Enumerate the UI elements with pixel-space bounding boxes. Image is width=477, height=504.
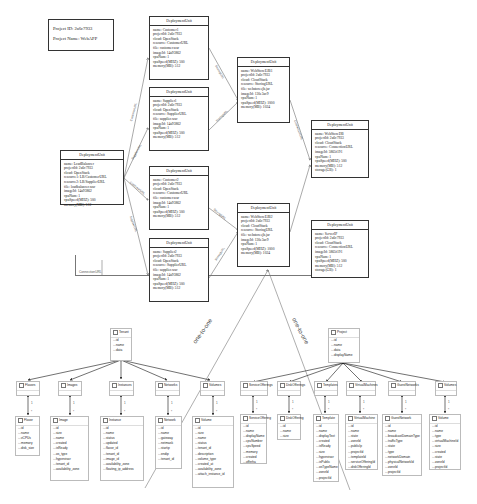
entity-template[interactable]: Template id name displayText created isR… — [313, 414, 339, 482]
one-to-one-label-right: one-to-one — [291, 317, 310, 345]
edge-label: CustomerURL — [129, 180, 146, 195]
field: data — [111, 348, 131, 353]
edge-label: StoringURL — [213, 207, 227, 220]
class-icon — [317, 383, 322, 388]
entity-title: Project — [337, 330, 347, 334]
deployment-unit-webstoreejb1[interactable]: DeploymentUnit name: WebStoreEJB1 projec… — [237, 57, 290, 123]
multiplicity-one: 1 — [363, 400, 365, 404]
entity-title: Volume — [438, 416, 449, 420]
unit-title: DeploymentUnit — [150, 17, 208, 26]
collection-serviceofferings[interactable]: ServiceOfferings — [240, 381, 268, 396]
class-icon — [103, 418, 108, 423]
class-icon — [18, 418, 23, 423]
deployment-unit-supplier2[interactable]: DeploymentUnit name: Supplier2 projectId… — [149, 238, 209, 302]
entity-tenant[interactable]: Tenant id name data — [110, 328, 132, 361]
entity-guestnetwork[interactable]: GuestNetwork id name broadcastDomainType… — [382, 414, 422, 476]
entity-title: DiskOfferings — [286, 383, 305, 387]
entity-title: Instance — [109, 418, 121, 422]
entity-image[interactable]: Image id size name created isReady os_ty… — [50, 416, 89, 481]
unit-line: memory(MB): 512 — [153, 214, 205, 219]
unit-title: DeploymentUnit — [150, 88, 208, 97]
edge-label: StoringURL — [214, 64, 225, 79]
collection-networks[interactable]: Networks — [155, 381, 180, 396]
collection-instances[interactable]: Instances — [109, 381, 134, 396]
class-icon — [195, 418, 200, 423]
collection-guestnetworks[interactable]: GuestNetworks — [388, 381, 416, 396]
deployment-unit-loadbalancer[interactable]: DeploymentUnit name: LoadBalancer projec… — [60, 150, 124, 205]
field: displayName — [329, 353, 359, 358]
class-icon — [158, 418, 163, 423]
class-icon — [348, 416, 353, 421]
entity-title: ServiceOfferings — [249, 383, 273, 387]
entity-title: DiskOffering — [286, 416, 303, 420]
class-icon — [243, 416, 248, 421]
deployment-unit-serverip[interactable]: DeploymentUnit name: ServerIP projectId:… — [311, 220, 369, 278]
entity-volume[interactable]: Volume id size name status tenant_id des… — [192, 416, 234, 488]
entity-volume-cs[interactable]: Volume id name type virtualMachineId siz… — [429, 414, 461, 470]
collection-templates[interactable]: Templates — [314, 381, 338, 396]
entity-title: Flavor — [24, 418, 33, 422]
multiplicity-one: 1 — [73, 401, 75, 405]
multiplicity-one: 1 — [448, 400, 450, 404]
field: size — [278, 434, 300, 439]
field: diskOfferingId — [346, 465, 377, 470]
entity-title: Flavors — [25, 383, 35, 387]
multiplicity-many: * — [73, 410, 74, 414]
unit-line: memory(MB): 512 — [153, 135, 205, 140]
multiplicity-many: * — [405, 408, 406, 412]
collection-flavors[interactable]: Flavors — [16, 381, 40, 396]
collection-volumes-cs[interactable]: Volumes — [435, 381, 457, 396]
class-icon — [349, 383, 354, 388]
entity-title: GuestNetwork — [391, 416, 411, 420]
class-icon — [61, 383, 66, 388]
multiplicity-many: * — [31, 410, 32, 414]
multiplicity-one: 1 — [216, 401, 218, 405]
field: disk_size — [16, 446, 39, 451]
multiplicity-one: 1 — [256, 400, 258, 404]
class-icon — [385, 416, 390, 421]
connection-url-label: ConnectionURL — [79, 270, 102, 274]
field: tenant_id — [156, 457, 181, 462]
multiplicity-one: 1 — [124, 401, 126, 405]
multiplicity-many: * — [328, 408, 329, 412]
multiplicity-many: * — [124, 410, 125, 414]
one-to-one-label-left: one-to-one — [192, 317, 214, 344]
entity-project[interactable]: Project id name data displayName — [328, 328, 360, 363]
class-icon — [438, 383, 443, 388]
class-icon — [331, 330, 336, 335]
multiplicity-many: * — [292, 408, 293, 412]
class-icon — [112, 383, 117, 388]
entity-diskoffering[interactable]: DiskOffering id name size — [277, 414, 301, 440]
entity-network[interactable]: Network id name gateway netmask startip … — [155, 416, 182, 469]
collection-images[interactable]: Images — [58, 381, 82, 396]
deployment-unit-customer1[interactable]: DeploymentUnit name: Customer1 projectId… — [149, 16, 209, 80]
deployment-unit-supplier1[interactable]: DeploymentUnit name: Supplier1 projectId… — [149, 87, 209, 151]
unit-line: memory(MB): 1024 — [241, 251, 286, 256]
entity-serviceoffering[interactable]: ServiceOffering id name displayName cpuN… — [240, 414, 267, 464]
multiplicity-one: 1 — [171, 401, 173, 405]
field: offerha — [241, 460, 266, 465]
entity-title: Volume — [201, 418, 212, 422]
class-icon — [391, 383, 396, 388]
collection-volumes[interactable]: Volumes — [200, 381, 225, 396]
multiplicity-one: 1 — [405, 400, 407, 404]
collection-virtualmachines[interactable]: VirtualMachines — [346, 381, 376, 396]
deployment-unit-webstoreejb2[interactable]: DeploymentUnit name: WebStoreEJB2 projec… — [237, 203, 290, 267]
collection-diskofferings[interactable]: DiskOfferings — [277, 381, 301, 396]
unit-title: DeploymentUnit — [238, 58, 289, 67]
deployment-unit-webstoredb[interactable]: DeploymentUnit name: WebStoreDB projectI… — [311, 120, 369, 178]
entity-instance[interactable]: Instance id name status updated flavor_i… — [100, 416, 144, 481]
multiplicity-many: * — [171, 410, 172, 414]
entity-title: VirtualMachines — [355, 383, 378, 387]
project-id-label: Project ID: 2a6c7933 — [53, 24, 109, 34]
multiplicity-many: * — [363, 408, 364, 412]
entity-flavor[interactable]: Flavor id name vCPUs memory disk_size — [15, 416, 40, 456]
deployment-unit-customer2[interactable]: DeploymentUnit name: Customer2 projectId… — [149, 166, 209, 230]
unit-line: memory(MB): 512 — [153, 64, 205, 69]
entity-virtualmachine[interactable]: VirtualMachine id name state zoneId publ… — [345, 414, 378, 470]
multiplicity-one: 1 — [328, 400, 330, 404]
class-icon — [280, 416, 285, 421]
project-info-box: Project ID: 2a6c7933 Project Name: WebAP… — [48, 19, 114, 51]
class-icon — [432, 416, 437, 421]
class-icon — [158, 383, 163, 388]
